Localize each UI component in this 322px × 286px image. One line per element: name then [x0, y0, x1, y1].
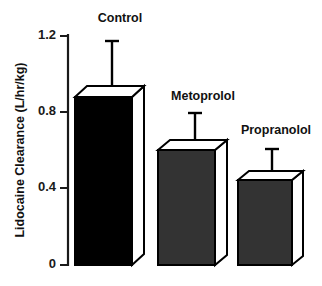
y-axis-title: Lidocaine Clearance (L/hr/kg)	[13, 62, 27, 237]
bar-top-propranolol	[238, 171, 303, 180]
bar-face-metoprolol	[158, 150, 215, 265]
bar-group-metoprolol: Metoprolol	[158, 89, 235, 265]
bar-group-control: Control	[75, 11, 144, 265]
bar-side-control	[132, 86, 144, 265]
bar-label-propranolol: Propranolol	[241, 123, 311, 137]
bar-side-metoprolol	[215, 140, 227, 265]
bar-group-propranolol: Propranolol	[238, 123, 311, 265]
bar-top-metoprolol	[158, 140, 227, 150]
y-tick-label-2: 0.8	[38, 103, 56, 118]
bar-face-control	[75, 97, 132, 265]
bar-label-control: Control	[98, 11, 142, 25]
y-tick-label-0: 0	[49, 256, 56, 271]
bar-top-control	[75, 86, 144, 97]
y-tick-label-3: 1.2	[38, 27, 56, 42]
y-tick-label-1: 0.4	[38, 179, 57, 194]
bar-face-propranolol	[238, 180, 292, 265]
bar-side-propranolol	[292, 171, 303, 265]
bar-chart: 0 0.4 0.8 1.2 Lidocaine Clearance (L/hr/…	[0, 0, 322, 286]
chart-canvas: 0 0.4 0.8 1.2 Lidocaine Clearance (L/hr/…	[0, 0, 322, 286]
bar-label-metoprolol: Metoprolol	[171, 89, 235, 103]
